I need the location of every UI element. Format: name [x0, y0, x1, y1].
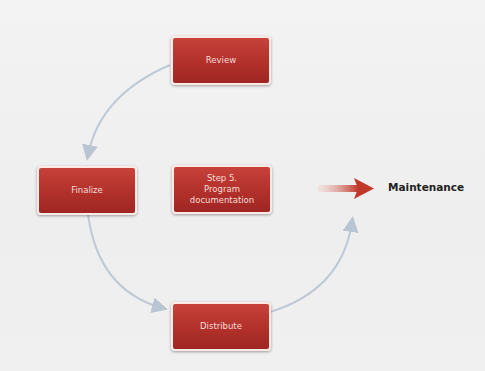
edge-review-finalize [88, 65, 170, 155]
node-finalize-label: Finalize [71, 185, 103, 196]
node-step5-line3: documentation [190, 195, 254, 206]
maintenance-label: Maintenance [388, 181, 464, 193]
node-review: Review [171, 36, 271, 85]
arrow-right-icon [318, 178, 374, 199]
node-finalize: Finalize [37, 166, 137, 215]
node-review-label: Review [206, 55, 236, 66]
node-step5-line2: Program [204, 184, 240, 195]
node-distribute: Distribute [171, 302, 271, 351]
node-step5-line1: Step 5. [207, 173, 237, 184]
edge-finalize-distribute [88, 214, 162, 308]
edge-distribute-maintenance [270, 222, 352, 312]
node-distribute-label: Distribute [200, 321, 242, 332]
node-step5: Step 5. Program documentation [172, 165, 272, 214]
